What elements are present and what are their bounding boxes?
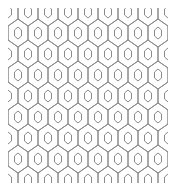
outer-hexagon (138, 82, 158, 110)
outer-hexagon (8, 19, 28, 47)
outer-hexagon (78, 40, 98, 68)
inner-hexagon (15, 69, 22, 81)
inner-hexagon (135, 153, 142, 165)
inner-hexagon (145, 90, 152, 102)
outer-hexagon (118, 8, 138, 26)
outer-hexagon (78, 8, 98, 26)
inner-hexagon (65, 8, 72, 18)
outer-hexagon (28, 145, 48, 173)
inner-hexagon (85, 132, 92, 144)
outer-hexagon (38, 8, 58, 26)
inner-hexagon (115, 153, 122, 165)
inner-hexagon (115, 69, 122, 81)
outer-hexagon (138, 124, 158, 152)
outer-hexagon (18, 82, 38, 110)
inner-hexagon (95, 69, 102, 81)
inner-hexagon (25, 132, 32, 144)
inner-hexagon (165, 174, 169, 183)
inner-hexagon (135, 69, 142, 81)
outer-hexagon (78, 82, 98, 110)
inner-hexagon (25, 90, 32, 102)
inner-hexagon (75, 111, 82, 123)
outer-hexagon (88, 61, 108, 89)
outer-hexagon (108, 19, 128, 47)
inner-hexagon (25, 174, 32, 183)
inner-hexagon (105, 132, 112, 144)
outer-hexagon (8, 40, 18, 68)
outer-hexagon (48, 19, 68, 47)
inner-hexagon (85, 174, 92, 183)
inner-hexagon (55, 27, 62, 39)
outer-hexagon (48, 145, 68, 173)
outer-hexagon (28, 61, 48, 89)
outer-hexagon (128, 19, 148, 47)
outer-hexagon (138, 8, 158, 26)
outer-hexagon (118, 82, 138, 110)
inner-hexagon (135, 111, 142, 123)
outer-hexagon (68, 103, 88, 131)
outer-hexagon (98, 124, 118, 152)
outer-hexagon (58, 40, 78, 68)
outer-hexagon (88, 103, 108, 131)
inner-hexagon (45, 132, 52, 144)
outer-hexagon (68, 19, 88, 47)
outer-hexagon (108, 103, 128, 131)
inner-hexagon (35, 153, 42, 165)
outer-hexagon (68, 145, 88, 173)
inner-hexagon (35, 69, 42, 81)
inner-hexagon (75, 27, 82, 39)
outer-hexagon (138, 40, 158, 68)
inner-hexagon (35, 111, 42, 123)
outer-hexagon (148, 19, 168, 47)
inner-hexagon (145, 132, 152, 144)
outer-hexagon (118, 124, 138, 152)
inner-hexagon (25, 48, 32, 60)
inner-hexagon (105, 174, 112, 183)
inner-hexagon (155, 153, 162, 165)
outer-hexagon (148, 103, 168, 131)
inner-hexagon (95, 153, 102, 165)
inner-hexagon (65, 48, 72, 60)
outer-hexagon (8, 124, 18, 152)
outer-hexagon (98, 40, 118, 68)
outer-hexagon (108, 61, 128, 89)
inner-hexagon (75, 69, 82, 81)
outer-hexagon (18, 40, 38, 68)
outer-hexagon (98, 82, 118, 110)
inner-hexagon (85, 48, 92, 60)
outer-hexagon (128, 61, 148, 89)
inner-hexagon (65, 174, 72, 183)
outer-hexagon (128, 103, 148, 131)
outer-hexagon (38, 40, 58, 68)
inner-hexagon (45, 90, 52, 102)
inner-hexagon (35, 27, 42, 39)
outer-hexagon (58, 82, 78, 110)
inner-hexagon (15, 153, 22, 165)
outer-hexagon (18, 8, 38, 26)
inner-hexagon (115, 111, 122, 123)
inner-hexagon (8, 90, 12, 102)
outer-hexagon (58, 8, 78, 26)
outer-hexagon (58, 124, 78, 152)
inner-hexagon (25, 8, 32, 18)
inner-hexagon (135, 27, 142, 39)
outer-hexagon (98, 8, 118, 26)
outer-hexagon (88, 145, 108, 173)
inner-hexagon (145, 174, 152, 183)
inner-hexagon (15, 27, 22, 39)
outer-hexagon (148, 61, 168, 89)
inner-hexagon (145, 8, 152, 18)
inner-hexagon (45, 174, 52, 183)
inner-hexagon (85, 90, 92, 102)
inner-hexagon (8, 8, 12, 18)
outer-hexagon (8, 103, 28, 131)
inner-hexagon (85, 8, 92, 18)
inner-hexagon (95, 111, 102, 123)
outer-hexagon (88, 19, 108, 47)
inner-hexagon (45, 48, 52, 60)
inner-hexagon (125, 90, 132, 102)
inner-hexagon (125, 48, 132, 60)
inner-hexagon (8, 174, 12, 183)
outer-hexagon (48, 61, 68, 89)
inner-hexagon (105, 8, 112, 18)
